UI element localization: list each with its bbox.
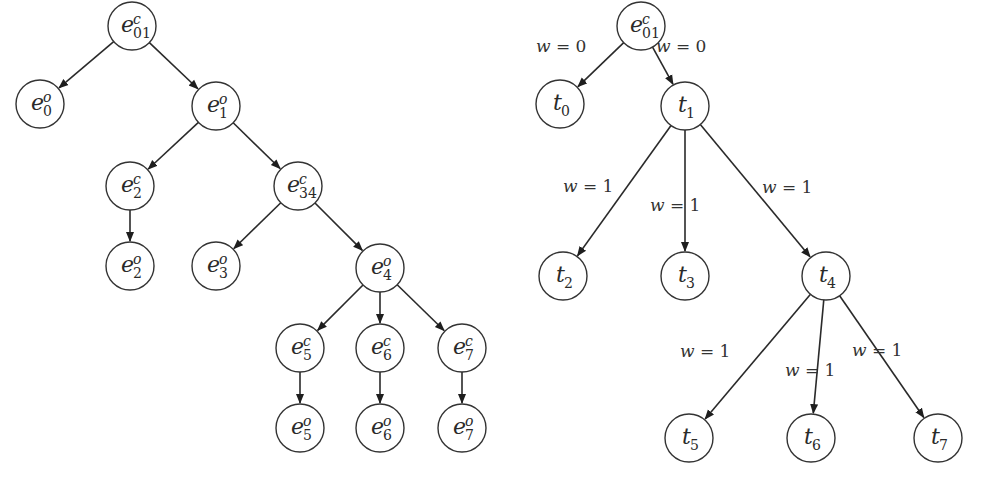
tree-node-t2: t2 <box>539 252 587 300</box>
node-label: eo2 <box>121 251 142 281</box>
tree-node-e34c: ec34 <box>274 162 322 210</box>
tree-node-e6o: eo6 <box>356 404 404 452</box>
edge-arrow <box>148 122 198 169</box>
edge-arrow <box>318 285 363 330</box>
tree-diagram-canvas: ec01eo0eo1ec2ec34eo2eo3eo4ec5ec6ec7eo5eo… <box>0 0 981 489</box>
event-tree-left: ec01eo0eo1ec2ec34eo2eo3eo4ec5ec6ec7eo5eo… <box>16 2 486 452</box>
edge-weight-label: w = 1 <box>852 340 902 360</box>
edge-arrow <box>59 42 114 88</box>
node-label: ec2 <box>121 171 142 201</box>
tree-node-t1: t1 <box>661 82 709 130</box>
node-label: ec5 <box>291 333 312 363</box>
node-label: eo6 <box>371 413 392 443</box>
tree-node-t0: t0 <box>536 80 584 128</box>
node-label: eo1 <box>207 91 228 121</box>
node-label: ec6 <box>371 333 392 363</box>
node-label: eo5 <box>291 413 312 443</box>
edge-weight-label: w = 1 <box>680 341 730 361</box>
node-label: eo4 <box>371 253 392 283</box>
tree-node-e1o: eo1 <box>192 82 240 130</box>
edge-weight-label: w = 1 <box>650 195 700 215</box>
edge-arrow <box>234 203 281 249</box>
tree-node-e4o: eo4 <box>356 244 404 292</box>
edge-weight-label: w = 0 <box>536 36 586 56</box>
tree-node-e5c: ec5 <box>276 324 324 372</box>
tree-node-e01c: ec01 <box>108 2 156 50</box>
tree-node-t7: t7 <box>914 414 962 462</box>
left-tree-nodes: ec01eo0eo1ec2ec34eo2eo3eo4ec5ec6ec7eo5eo… <box>16 2 486 452</box>
tree-node-e5o: eo5 <box>276 404 324 452</box>
tree-node-e7c: ec7 <box>438 324 486 372</box>
tree-node-t6: t6 <box>787 414 835 462</box>
edge-weight-label: w = 1 <box>563 176 613 196</box>
tree-node-r_e01c: ec01 <box>617 2 665 50</box>
node-label: ec7 <box>453 333 474 363</box>
tree-node-e6c: ec6 <box>356 324 404 372</box>
tree-node-e2o: eo2 <box>106 242 154 290</box>
tree-node-t5: t5 <box>665 414 713 462</box>
right-tree-edges <box>578 43 924 419</box>
edge-arrow <box>813 300 823 413</box>
node-label: eo0 <box>31 89 52 119</box>
weighted-tree-right: w = 0w = 0w = 1w = 1w = 1w = 1w = 1w = 1… <box>536 2 962 462</box>
tree-node-t4: t4 <box>802 252 850 300</box>
tree-node-e7o: eo7 <box>438 404 486 452</box>
edge-arrow <box>315 203 362 250</box>
tree-node-e0o: eo0 <box>16 80 64 128</box>
right-tree-nodes: ec01t0t1t2t3t4t5t6t7 <box>536 2 962 462</box>
tree-node-e3o: eo3 <box>192 242 240 290</box>
edge-weight-label: w = 1 <box>762 177 812 197</box>
node-label: eo7 <box>453 413 474 443</box>
edge-weight-label: w = 0 <box>656 36 706 56</box>
right-tree-weight-labels: w = 0w = 0w = 1w = 1w = 1w = 1w = 1w = 1 <box>536 36 902 380</box>
node-label: eo3 <box>207 251 228 281</box>
tree-node-e2c: ec2 <box>106 162 154 210</box>
edge-arrow <box>397 285 444 331</box>
edge-arrow <box>149 43 198 89</box>
tree-node-t3: t3 <box>661 252 709 300</box>
edge-arrow <box>233 123 280 169</box>
edge-weight-label: w = 1 <box>785 360 835 380</box>
